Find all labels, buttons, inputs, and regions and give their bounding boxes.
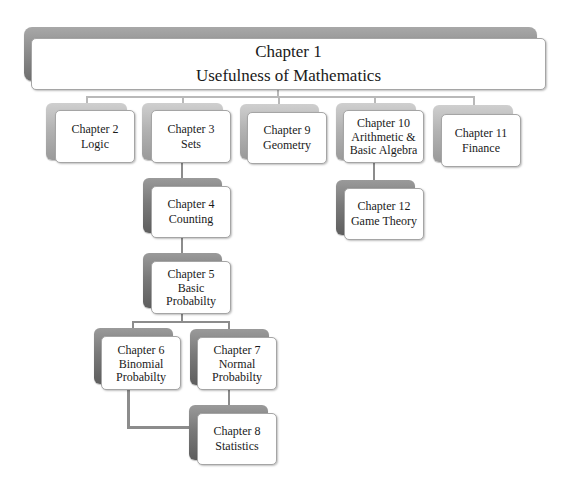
node-label: Finance: [462, 141, 500, 156]
connector-ch6-ch8-vertical: [127, 390, 130, 428]
node-title: Chapter 1: [255, 40, 322, 64]
connector-ch6-ch8-horizontal: [127, 426, 190, 429]
connector-ch4-ch5: [181, 238, 183, 254]
node-title: Chapter 10: [357, 116, 410, 131]
connector-ch9: [278, 96, 280, 104]
node-title: Chapter 7: [214, 343, 261, 358]
node-label: Logic: [81, 137, 109, 152]
node-title: Chapter 11: [455, 126, 508, 141]
node-label: Sets: [181, 137, 201, 152]
node-title: Chapter 4: [168, 197, 215, 212]
connector-ch5-bus: [132, 321, 230, 323]
connector-root-bus: [86, 96, 475, 98]
node-label: Basic Algebra: [350, 144, 418, 157]
node-subtitle: Usefulness of Mathematics: [196, 64, 381, 88]
node-title: Chapter 9: [264, 123, 311, 138]
node-label: Statistics: [215, 439, 258, 454]
connector-ch7-ch8: [228, 390, 230, 406]
node-title: Chapter 5: [168, 267, 215, 282]
node-title: Chapter 12: [358, 199, 411, 214]
node-label: Geometry: [263, 138, 311, 153]
connector-ch3-ch4: [181, 162, 183, 179]
connector-ch10-ch12: [373, 163, 375, 181]
node-title: Chapter 2: [72, 122, 119, 137]
node-title: Chapter 8: [214, 424, 261, 439]
node-title: Chapter 3: [168, 122, 215, 137]
connector-ch11: [473, 96, 475, 105]
node-label: Binomial: [119, 358, 164, 371]
node-title: Chapter 6: [118, 343, 165, 358]
node-label: Probabilty: [166, 295, 216, 308]
node-label: Probabilty: [116, 371, 166, 384]
chapter-hierarchy-diagram: Chapter 1 Usefulness of Mathematics Chap…: [0, 0, 570, 499]
node-label: Probabilty: [212, 371, 262, 384]
node-label: Game Theory: [351, 214, 417, 229]
node-label: Counting: [169, 212, 214, 227]
